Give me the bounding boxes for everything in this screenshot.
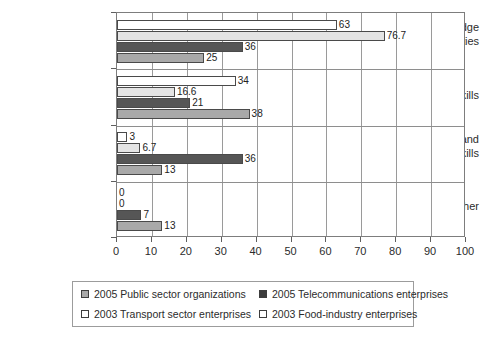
bar-value-label: 34: [236, 76, 249, 86]
x-axis-tick-label: 50: [284, 245, 296, 257]
bar: [117, 154, 243, 164]
bar-row: 0: [117, 188, 466, 198]
bar-chart: Technical knowledge and abilities Core s…: [0, 0, 483, 338]
plot-area: 6376.736253416.6213836.7361300713: [116, 12, 465, 237]
bar-value-label: 36: [243, 154, 256, 164]
x-axis-tick: [291, 237, 292, 242]
x-axis-tick-label: 100: [456, 245, 474, 257]
legend-swatch-icon: [81, 290, 89, 298]
bar: [117, 221, 162, 231]
bar-value-label: 36: [243, 42, 256, 52]
bar-row: 6.7: [117, 143, 466, 153]
bar-row: 16.6: [117, 87, 466, 97]
bar-value-label: 13: [162, 221, 175, 231]
bar: [117, 31, 385, 41]
x-axis-tick-label: 20: [180, 245, 192, 257]
bar-value-label: 16.6: [175, 87, 196, 97]
x-axis-tick: [430, 237, 431, 242]
x-axis-tick: [186, 237, 187, 242]
x-axis-tick-label: 40: [249, 245, 261, 257]
y-axis-tick: [111, 125, 116, 126]
bar: [117, 109, 250, 119]
bar: [117, 132, 127, 142]
x-axis-tick-label: 10: [145, 245, 157, 257]
bar-value-label: 25: [204, 53, 217, 63]
legend-item-transport-sector: 2003 Transport sector enterprises: [81, 308, 259, 320]
bar-row: 36: [117, 154, 466, 164]
bar-value-label: 0: [117, 188, 125, 198]
legend-item-public-sector: 2005 Public sector organizations: [81, 288, 259, 300]
x-axis-tick: [395, 237, 396, 242]
bar-row: 36: [117, 42, 466, 52]
category-separator: [117, 126, 464, 127]
bar-row: 13: [117, 221, 466, 231]
bar-value-label: 76.7: [385, 31, 406, 41]
category-separator: [117, 182, 464, 183]
bar-value-label: 6.7: [140, 143, 156, 153]
x-axis-tick-label: 60: [319, 245, 331, 257]
bar-value-label: 21: [190, 98, 203, 108]
y-axis-tick: [111, 181, 116, 182]
bar-row: 21: [117, 98, 466, 108]
x-axis-tick: [325, 237, 326, 242]
x-axis-tick-label: 0: [113, 245, 119, 257]
legend-swatch-icon: [259, 290, 267, 298]
y-axis-tick: [111, 12, 116, 13]
x-axis-tick-label: 70: [354, 245, 366, 257]
x-axis-tick: [116, 237, 117, 242]
x-axis-tick: [221, 237, 222, 242]
legend-item-food-industry: 2003 Food-industry enterprises: [259, 308, 448, 320]
x-axis-tick-label: 80: [389, 245, 401, 257]
legend: 2005 Public sector organizations 2005 Te…: [72, 281, 414, 327]
bar-value-label: 13: [162, 165, 175, 175]
legend-swatch-icon: [81, 310, 89, 318]
bar-row: 76.7: [117, 31, 466, 41]
legend-swatch-icon: [259, 310, 267, 318]
bar: [117, 76, 236, 86]
bar-row: 7: [117, 210, 466, 220]
x-axis-tick-label: 30: [215, 245, 227, 257]
y-axis-tick: [111, 237, 116, 238]
x-axis-tick: [360, 237, 361, 242]
bar-row: 63: [117, 20, 466, 30]
bar-row: 34: [117, 76, 466, 86]
bar: [117, 53, 204, 63]
legend-item-telecommunications: 2005 Telecommunications enterprises: [259, 288, 448, 300]
bar-value-label: 63: [337, 20, 350, 30]
bar: [117, 143, 140, 153]
bar: [117, 42, 243, 52]
x-axis-tick: [151, 237, 152, 242]
bar: [117, 98, 190, 108]
bar-row: 0: [117, 199, 466, 209]
bar: [117, 87, 175, 97]
legend-item-label: 2003 Food-industry enterprises: [272, 308, 417, 320]
category-separator: [117, 69, 464, 70]
bar-value-label: 7: [141, 210, 149, 220]
bar: [117, 165, 162, 175]
bar-row: 25: [117, 53, 466, 63]
bar: [117, 210, 141, 220]
bar-value-label: 3: [127, 132, 135, 142]
bar-row: 13: [117, 165, 466, 175]
bar-row: 38: [117, 109, 466, 119]
x-axis-tick: [465, 237, 466, 242]
x-axis-tick-label: 90: [424, 245, 436, 257]
legend-item-label: 2003 Transport sector enterprises: [94, 308, 251, 320]
legend-item-label: 2005 Telecommunications enterprises: [272, 288, 448, 300]
bar-value-label: 38: [250, 109, 263, 119]
bar-value-label: 0: [117, 199, 125, 209]
bar: [117, 20, 337, 30]
x-axis-tick: [256, 237, 257, 242]
legend-item-label: 2005 Public sector organizations: [94, 288, 246, 300]
bar-row: 3: [117, 132, 466, 142]
y-axis-tick: [111, 68, 116, 69]
